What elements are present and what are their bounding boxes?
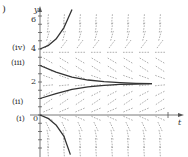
y-tick-label-4: 4 [31,45,36,53]
direction-field-plot [0,0,188,157]
curve-label-i: (i) [16,115,25,123]
y-tick-label-0: 0 [33,115,38,123]
curve-label-iv: (iv) [12,44,25,52]
solution-curve-4 [40,9,72,49]
panel-marker: ) [2,4,6,14]
y-tick-label-2: 2 [31,78,36,86]
t-axis-label: t [178,119,181,127]
y-axis-label: y [34,6,39,14]
solution-curve-3 [40,66,152,84]
solution-curve-1 [40,115,70,155]
solution-curve-2 [40,84,152,99]
y-tick-label-6: 6 [31,16,36,24]
curve-label-ii: (ii) [12,98,23,106]
t-axis-arrow-icon [178,113,184,117]
solution-curves [40,9,152,154]
curve-label-iii: (iii) [11,59,25,67]
